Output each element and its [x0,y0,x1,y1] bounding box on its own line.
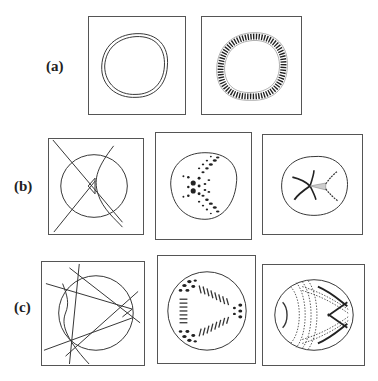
row-label-c: (c) [14,299,31,316]
cusp-pattern-icon [263,135,362,234]
caustic-cusp-lines-icon [49,139,143,234]
fan-pattern-icon [263,265,364,365]
panel-c3 [262,264,365,366]
dotted-triangle-pattern-icon [158,256,255,363]
panel-b1 [48,138,144,235]
panel-b3 [262,134,363,235]
dotted-cross-pattern-icon [156,133,251,239]
panel-b2 [155,132,252,240]
panel-c2 [157,255,256,364]
panel-a2 [201,16,302,115]
row-label-b: (b) [14,178,32,195]
panel-c1 [41,261,145,366]
caustic-triangle-lines-icon [42,262,144,365]
row-label-a: (a) [46,58,64,75]
double-closed-curve-icon [89,17,185,114]
dotted-ring-pattern-icon [202,17,301,114]
panel-a1 [88,16,186,115]
